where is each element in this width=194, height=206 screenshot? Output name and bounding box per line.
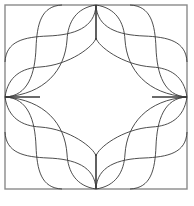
curve-v1: [130, 97, 187, 189]
quadrant-bottom-left: [5, 97, 96, 189]
curve-h2: [96, 38, 187, 97]
curve-v2: [5, 5, 96, 97]
curve-h1: [5, 5, 96, 62]
curve-v1: [130, 5, 187, 97]
curve-h2: [5, 97, 96, 156]
curve-v2: [5, 97, 96, 189]
curve-v2: [96, 5, 187, 97]
curve-h1: [96, 132, 187, 189]
quadrant-bottom-right: [96, 97, 187, 189]
curve-v1: [5, 5, 62, 97]
curve-v2: [96, 97, 187, 189]
curve-h1: [5, 132, 96, 189]
curve-v1: [5, 97, 62, 189]
quadrant-top-right: [96, 5, 187, 97]
curve-h2: [96, 97, 187, 156]
quadrant-top-left: [5, 5, 96, 97]
curve-h1: [96, 5, 187, 62]
rosette-figure: [0, 0, 194, 206]
curve-h2: [5, 38, 96, 97]
